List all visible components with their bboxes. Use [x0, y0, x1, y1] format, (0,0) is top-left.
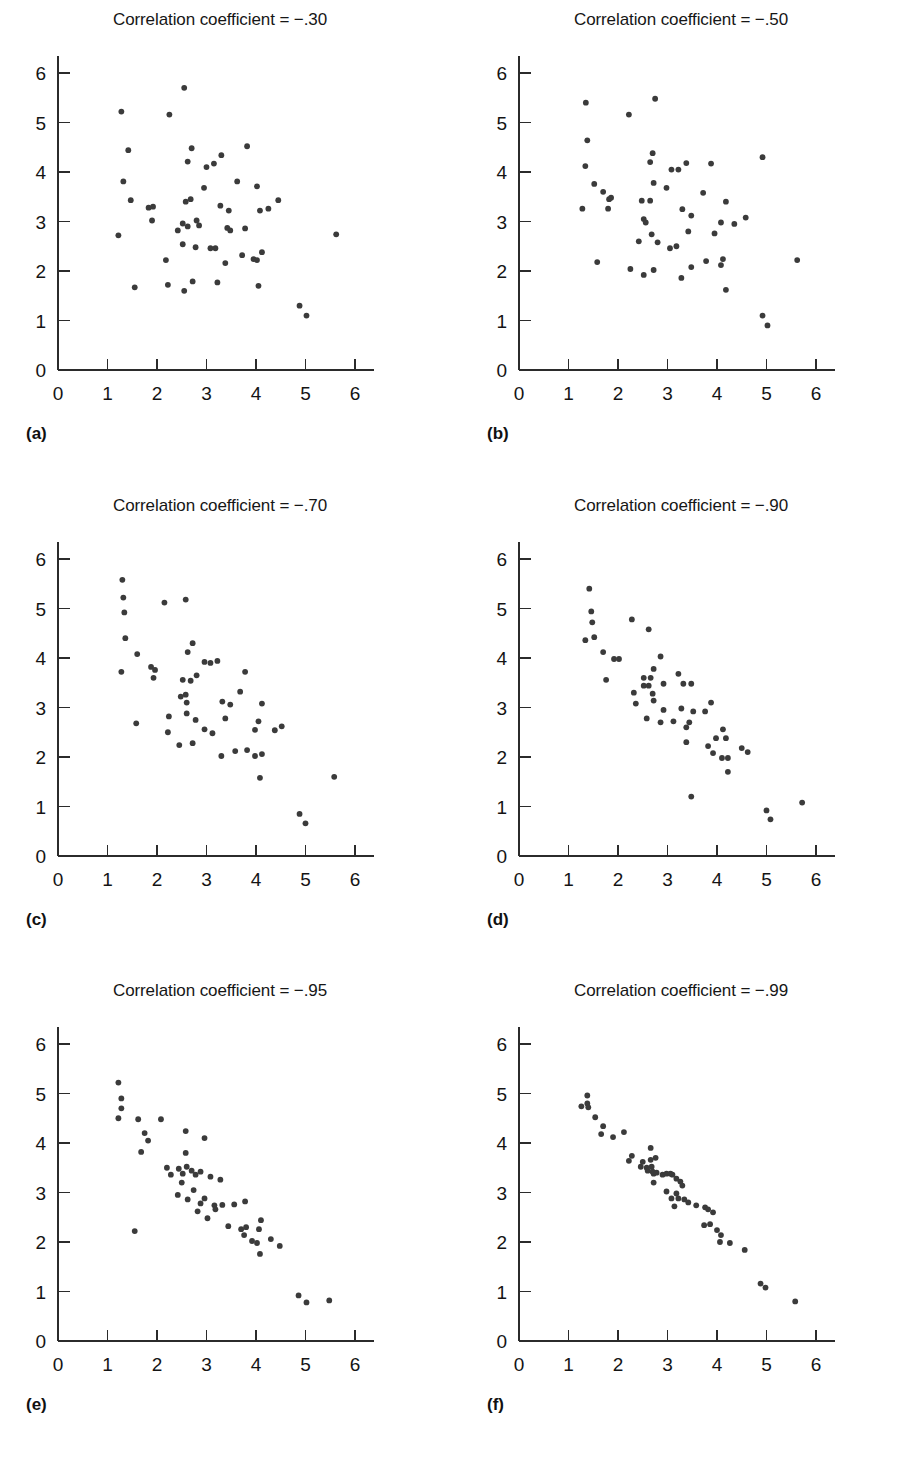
x-tick-label: 0 [53, 1354, 64, 1375]
data-point [128, 197, 134, 203]
x-tick-label: 1 [102, 1354, 113, 1375]
y-tick-label: 0 [35, 360, 46, 381]
data-point [616, 656, 622, 662]
data-point [231, 1201, 237, 1207]
data-point-group [578, 1093, 798, 1305]
y-tick-label: 4 [35, 648, 46, 669]
data-point [763, 1285, 769, 1291]
data-point [297, 811, 303, 817]
data-point [651, 267, 657, 273]
data-point [193, 717, 199, 723]
panel-label-c: (c) [26, 910, 47, 930]
panel-label-f: (f) [487, 1395, 504, 1415]
y-tick-label: 6 [496, 63, 507, 84]
y-tick-label: 2 [35, 747, 46, 768]
y-tick-label: 1 [496, 797, 507, 818]
y-tick-label: 1 [496, 1282, 507, 1303]
data-point [297, 303, 303, 309]
y-tick-label: 4 [35, 162, 46, 183]
data-point [626, 112, 632, 118]
data-point [647, 198, 653, 204]
y-tick-label: 4 [496, 162, 507, 183]
data-point [683, 724, 689, 730]
data-point [158, 1116, 164, 1122]
data-point [723, 287, 729, 293]
data-point [723, 199, 729, 205]
data-point [210, 730, 216, 736]
y-tick-label: 3 [35, 698, 46, 719]
data-point [644, 715, 650, 721]
data-point-group [115, 85, 339, 318]
data-point [650, 150, 656, 156]
data-point [185, 159, 191, 165]
data-point [579, 206, 585, 212]
data-point [190, 740, 196, 746]
data-point [178, 694, 184, 700]
data-point [183, 1150, 189, 1156]
y-tick-label: 0 [496, 360, 507, 381]
data-point [217, 203, 223, 209]
data-point [183, 692, 189, 698]
data-point [202, 659, 208, 665]
data-point [683, 160, 689, 166]
data-point [227, 702, 233, 708]
data-point [227, 228, 233, 234]
x-tick-label: 3 [201, 383, 212, 404]
data-point [591, 181, 597, 187]
data-point [272, 727, 278, 733]
data-point [180, 241, 186, 247]
data-point [184, 711, 190, 717]
data-point [639, 198, 645, 204]
data-point [720, 726, 726, 732]
y-tick-label: 6 [35, 549, 46, 570]
data-point [643, 220, 649, 226]
data-point [118, 1105, 124, 1111]
data-point [685, 1200, 691, 1206]
data-point [658, 719, 664, 725]
data-point [718, 220, 724, 226]
data-point [185, 649, 191, 655]
y-tick-label: 0 [496, 1331, 507, 1352]
data-point [133, 720, 139, 726]
data-point [115, 1080, 121, 1086]
panel-title-f: Correlation coefficient = −.99 [461, 981, 901, 1001]
data-point [202, 726, 208, 732]
data-point [653, 1155, 659, 1161]
data-point [194, 218, 200, 224]
x-tick-label: 6 [350, 1354, 361, 1375]
x-tick-label: 4 [712, 1354, 723, 1375]
data-point [226, 208, 232, 214]
x-tick-label: 2 [152, 1354, 163, 1375]
data-point [120, 595, 126, 601]
data-point [688, 213, 694, 219]
data-point [764, 808, 770, 814]
data-point [214, 279, 220, 285]
y-tick-label: 5 [496, 599, 507, 620]
data-point [629, 616, 635, 622]
y-tick-label: 5 [496, 113, 507, 134]
data-point [219, 1202, 225, 1208]
data-point [675, 671, 681, 677]
data-point [598, 1131, 604, 1137]
y-tick-label: 0 [496, 846, 507, 867]
data-point [254, 1240, 260, 1246]
data-point [669, 167, 675, 173]
data-point [296, 1293, 302, 1299]
data-point [688, 681, 694, 687]
data-point [641, 272, 647, 278]
panel-title-b: Correlation coefficient = −.50 [461, 10, 901, 30]
x-tick-label: 6 [811, 869, 822, 890]
data-point [584, 137, 590, 143]
data-point [132, 1228, 138, 1234]
data-point [176, 742, 182, 748]
data-point [185, 1197, 191, 1203]
data-point [718, 262, 724, 268]
x-tick-label: 2 [613, 383, 624, 404]
scatter-plot-d: 01234560123456 [461, 524, 881, 904]
y-tick-label: 1 [35, 1282, 46, 1303]
data-point [244, 747, 250, 753]
scatter-panel-e: Correlation coefficient = −.95 012345601… [0, 971, 461, 1451]
data-point [181, 288, 187, 294]
data-point [213, 1206, 219, 1212]
data-point [710, 750, 716, 756]
